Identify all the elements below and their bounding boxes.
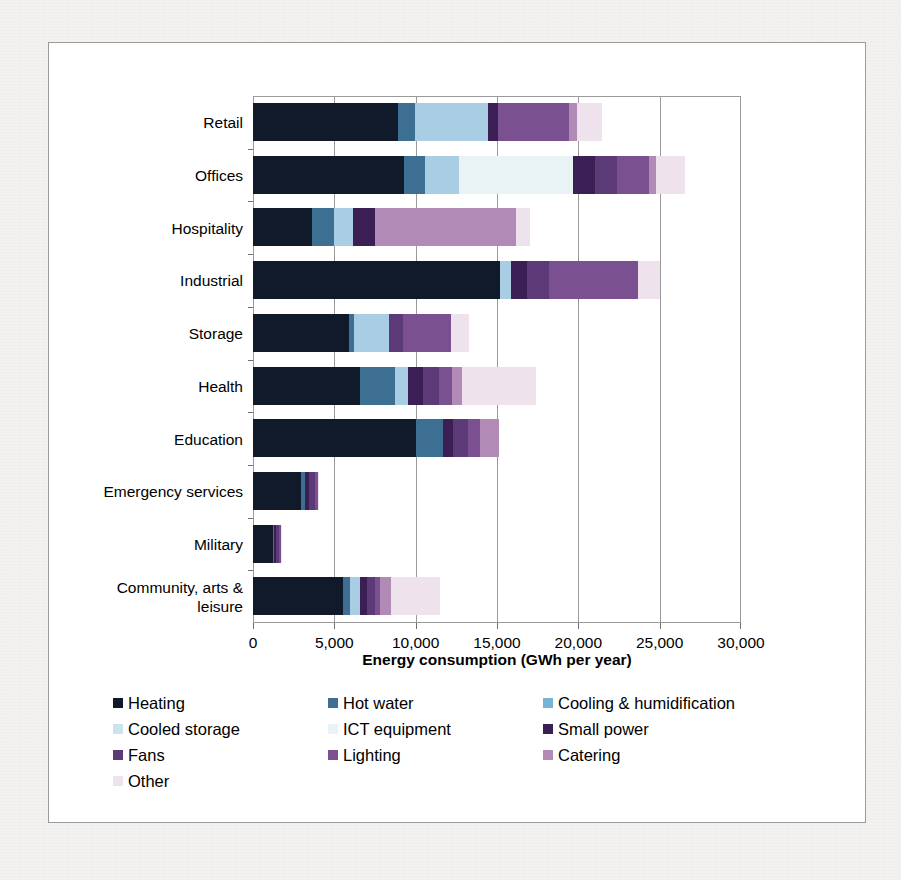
bar-segment[interactable] [649, 156, 656, 194]
legend-label: Other [128, 769, 169, 793]
x-axis-tick [416, 623, 417, 629]
bar-segment[interactable] [425, 156, 459, 194]
bar-segment[interactable] [569, 103, 576, 141]
bar-segment[interactable] [391, 577, 440, 615]
bar-segment[interactable] [367, 577, 375, 615]
legend-item[interactable]: ICT equipment [328, 717, 543, 741]
legend-item[interactable]: Small power [543, 717, 803, 741]
bar-segment[interactable] [595, 156, 618, 194]
stacked-bar[interactable] [253, 314, 469, 352]
bar-segment[interactable] [443, 419, 453, 457]
bar-segment[interactable] [617, 156, 649, 194]
bar-segment[interactable] [415, 103, 488, 141]
bar-segment[interactable] [253, 208, 312, 246]
bar-segment[interactable] [354, 314, 389, 352]
bar-segment[interactable] [253, 103, 398, 141]
chart-row: Hospitality [253, 201, 741, 254]
chart-row: Retail [253, 96, 741, 149]
bar-segment[interactable] [500, 261, 511, 299]
bar-segment[interactable] [403, 314, 451, 352]
legend-row: Cooled storageICT equipmentSmall power [113, 717, 853, 741]
stacked-bar[interactable] [253, 367, 536, 405]
y-axis-tick [248, 518, 253, 519]
bar-segment[interactable] [577, 103, 602, 141]
bar-segment[interactable] [439, 367, 452, 405]
y-axis-tick [248, 201, 253, 202]
bar-segment[interactable] [360, 577, 367, 615]
bar-segment[interactable] [350, 577, 360, 615]
bar-segment[interactable] [453, 419, 468, 457]
bar-segment[interactable] [452, 367, 462, 405]
x-axis-tick [740, 623, 741, 629]
bar-segment[interactable] [395, 367, 408, 405]
y-axis-category-label: Emergency services [103, 482, 243, 501]
legend-swatch-icon [543, 724, 553, 734]
legend-item[interactable]: Cooling & humidification [543, 691, 803, 715]
legend-item[interactable]: Lighting [328, 743, 543, 767]
bar-segment[interactable] [253, 577, 343, 615]
chart-row: Community, arts & leisure [253, 570, 741, 623]
bar-segment[interactable] [253, 525, 273, 563]
stacked-bar[interactable] [253, 525, 281, 563]
bar-segment[interactable] [353, 208, 375, 246]
bar-segment[interactable] [312, 208, 335, 246]
chart-row: Industrial [253, 254, 741, 307]
bar-segment[interactable] [527, 261, 549, 299]
stacked-bar[interactable] [253, 472, 319, 510]
x-axis-tick-label: 15,000 [473, 634, 520, 652]
legend-swatch-icon [113, 776, 123, 786]
legend-swatch-icon [113, 724, 123, 734]
bar-segment[interactable] [549, 261, 638, 299]
bar-segment[interactable] [488, 103, 498, 141]
y-axis-tick [248, 149, 253, 150]
chart-row: Education [253, 412, 741, 465]
bar-segment[interactable] [398, 103, 415, 141]
bar-segment[interactable] [380, 577, 391, 615]
bar-segment[interactable] [498, 103, 570, 141]
bar-segment[interactable] [573, 156, 595, 194]
bar-segment[interactable] [334, 208, 353, 246]
y-axis-tick [248, 412, 253, 413]
bar-segment[interactable] [462, 367, 536, 405]
bar-segment[interactable] [416, 419, 444, 457]
bar-segment[interactable] [253, 314, 349, 352]
bar-segment[interactable] [423, 367, 439, 405]
stacked-bar[interactable] [253, 103, 602, 141]
stacked-bar[interactable] [253, 261, 660, 299]
stacked-bar[interactable] [253, 419, 499, 457]
bar-segment[interactable] [253, 367, 360, 405]
bar-segment[interactable] [638, 261, 661, 299]
bar-segment[interactable] [253, 156, 404, 194]
bar-segment[interactable] [511, 261, 527, 299]
legend-item[interactable]: Heating [113, 691, 328, 715]
chart-legend: HeatingHot waterCooling & humidification… [113, 691, 853, 795]
bar-segment[interactable] [389, 314, 403, 352]
legend-item[interactable]: Fans [113, 743, 328, 767]
bar-segment[interactable] [253, 472, 301, 510]
bar-segment[interactable] [404, 156, 424, 194]
bar-segment[interactable] [253, 419, 416, 457]
x-axis-tick [253, 623, 254, 629]
legend-item[interactable]: Hot water [328, 691, 543, 715]
bar-segment[interactable] [318, 472, 319, 510]
legend-label: Cooling & humidification [558, 691, 735, 715]
x-axis-tick [334, 623, 335, 629]
bar-segment[interactable] [459, 156, 573, 194]
bar-segment[interactable] [516, 208, 530, 246]
legend-item[interactable]: Other [113, 769, 328, 793]
stacked-bar[interactable] [253, 577, 440, 615]
bar-segment[interactable] [656, 156, 684, 194]
bar-segment[interactable] [375, 208, 517, 246]
bar-segment[interactable] [451, 314, 470, 352]
stacked-bar[interactable] [253, 156, 685, 194]
bar-segment[interactable] [360, 367, 394, 405]
legend-item[interactable]: Catering [543, 743, 803, 767]
legend-swatch-icon [543, 750, 553, 760]
legend-item[interactable]: Cooled storage [113, 717, 328, 741]
bar-segment[interactable] [480, 419, 500, 457]
bar-segment[interactable] [253, 261, 500, 299]
legend-row: HeatingHot waterCooling & humidification [113, 691, 853, 715]
bar-segment[interactable] [468, 419, 480, 457]
bar-segment[interactable] [408, 367, 423, 405]
stacked-bar[interactable] [253, 208, 530, 246]
